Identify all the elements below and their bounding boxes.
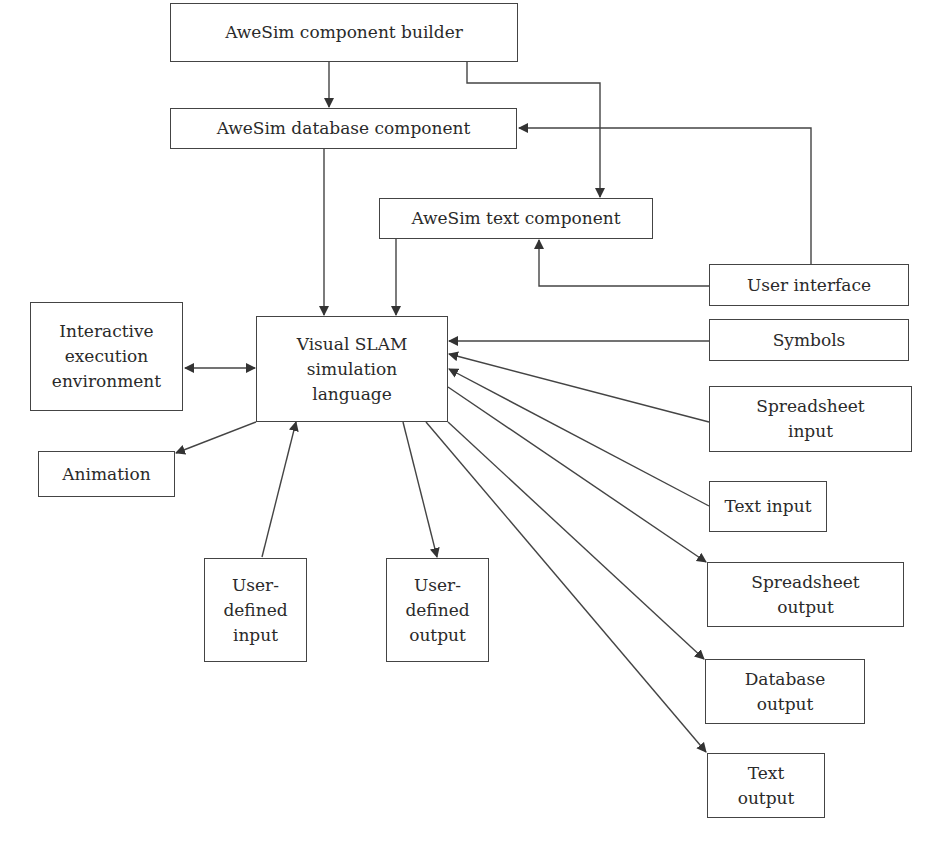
node-label: Text output (738, 761, 795, 811)
arrow-spreadsheet-input-to-slam (449, 354, 709, 422)
arrow-slam-to-spreadsheet-output (448, 387, 706, 562)
node-label: Interactive execution environment (52, 319, 161, 394)
node-component-builder: AweSim component builder (170, 3, 518, 62)
node-database-component: AweSim database component (170, 108, 517, 149)
node-text-component: AweSim text component (379, 198, 653, 239)
node-user-defined-output: User- defined output (386, 558, 489, 662)
node-label: Visual SLAM simulation language (297, 332, 408, 407)
node-spreadsheet-output: Spreadsheet output (707, 562, 904, 627)
node-label: Spreadsheet output (751, 570, 859, 620)
node-text-input: Text input (709, 481, 827, 532)
node-label: Database output (745, 667, 826, 717)
node-label: User- defined output (405, 573, 469, 648)
node-interactive-environment: Interactive execution environment (30, 302, 183, 411)
node-spreadsheet-input: Spreadsheet input (709, 386, 912, 452)
node-label: Symbols (773, 328, 846, 353)
arrow-slam-to-user-output (403, 422, 437, 557)
node-user-defined-input: User- defined input (204, 558, 307, 662)
arrow-text-input-to-slam (449, 369, 709, 506)
node-label: AweSim database component (217, 116, 471, 141)
node-text-output: Text output (707, 753, 825, 818)
arrow-user-interface-to-database (519, 128, 811, 264)
node-label: AweSim text component (411, 206, 620, 231)
node-animation: Animation (38, 451, 175, 497)
node-symbols: Symbols (709, 319, 909, 361)
node-label: User interface (747, 273, 871, 298)
arrow-slam-to-animation (176, 422, 256, 453)
node-database-output: Database output (705, 659, 865, 724)
node-label: User- defined input (223, 573, 287, 648)
node-label: Spreadsheet input (756, 394, 864, 444)
arrow-user-input-to-slam (262, 422, 296, 557)
node-visual-slam: Visual SLAM simulation language (256, 316, 448, 422)
arrow-user-interface-to-text-component (539, 240, 709, 286)
node-label: Text input (725, 494, 812, 519)
node-label: AweSim component builder (225, 20, 463, 45)
node-user-interface: User interface (709, 264, 909, 306)
node-label: Animation (62, 462, 150, 487)
